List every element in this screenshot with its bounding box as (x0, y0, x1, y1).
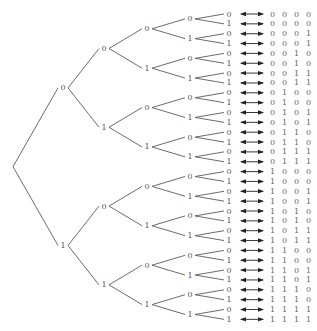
node-label: 0 (187, 93, 192, 102)
node-label: 0 (144, 103, 149, 112)
node-label: 1 (226, 256, 231, 265)
node-label: 1 (187, 192, 192, 201)
tree-edge (152, 295, 185, 305)
node-label: 1 (226, 197, 231, 206)
binary-code: 1 0 1 1 1 (270, 236, 317, 245)
tree-edge (152, 58, 185, 68)
tree-edge (195, 73, 224, 78)
node-label: 1 (226, 216, 231, 225)
tree-edge (195, 255, 224, 260)
node-label: 0 (187, 172, 192, 181)
binary-code: 0 0 0 1 1 (270, 39, 317, 48)
mapping-arrows (241, 14, 263, 319)
binary-code: 1 1 0 0 0 (270, 246, 317, 255)
binary-code: 1 0 0 1 1 (270, 197, 317, 206)
tree-edge (152, 265, 185, 275)
node-label: 1 (144, 142, 149, 151)
binary-code: 0 0 1 1 1 (270, 78, 317, 87)
tree-edge (68, 48, 99, 87)
node-label: 1 (226, 39, 231, 48)
tree-edge (109, 108, 142, 128)
node-label: 0 (144, 182, 149, 191)
tree-edge (195, 191, 224, 196)
node-label: 1 (144, 64, 149, 73)
binary-codes: 0 0 0 0 00 0 0 0 10 0 0 1 00 0 0 1 10 0 … (270, 10, 317, 324)
node-label: 1 (187, 74, 192, 83)
tree-edge (195, 314, 224, 319)
node-label: 0 (226, 108, 231, 117)
tree-edge (195, 117, 224, 122)
tree-edge (109, 206, 142, 226)
binary-code: 0 0 1 1 0 (270, 69, 317, 78)
tree-edge (195, 93, 224, 98)
tree-edge (152, 226, 185, 236)
tree-edge (195, 14, 224, 19)
binary-code: 0 1 1 0 1 (270, 138, 317, 147)
tree-edge (195, 177, 224, 182)
node-label: 0 (101, 44, 106, 53)
tree-edge (152, 216, 185, 226)
tree-edge (195, 58, 224, 63)
tree-edge (152, 137, 185, 147)
tree-edge (195, 152, 224, 157)
binary-code: 1 0 0 1 0 (270, 187, 317, 196)
tree-edge (109, 127, 142, 147)
tree-edge (195, 137, 224, 142)
node-label: 1 (187, 113, 192, 122)
tree-edge (152, 68, 185, 78)
node-label: 0 (226, 246, 231, 255)
node-label: 1 (226, 295, 231, 304)
tree-edge (195, 132, 224, 137)
binary-code: 0 1 0 1 1 (270, 118, 317, 127)
tree-edge (152, 255, 185, 265)
tree-edge (195, 310, 224, 315)
tree-edge (195, 295, 224, 300)
node-label: 1 (101, 123, 106, 132)
tree-edge (152, 186, 185, 196)
binary-code: 1 1 0 1 0 (270, 266, 317, 275)
tree-edge (195, 211, 224, 216)
tree-edge (195, 231, 224, 236)
tree-edge (109, 48, 142, 68)
tree-edge (195, 157, 224, 162)
tree-edge (152, 108, 185, 118)
node-label: 1 (60, 241, 65, 250)
node-label: 0 (226, 207, 231, 216)
node-label: 0 (187, 211, 192, 220)
tree-edge (195, 270, 224, 275)
node-label: 1 (226, 177, 231, 186)
binary-code: 1 1 1 1 0 (270, 305, 317, 314)
node-label: 0 (226, 128, 231, 137)
tree-edge (68, 88, 99, 127)
node-label: 0 (187, 54, 192, 63)
node-label: 0 (226, 147, 231, 156)
node-label: 0 (226, 266, 231, 275)
node-label: 1 (226, 19, 231, 28)
binary-code: 0 0 0 1 0 (270, 29, 317, 38)
node-label: 1 (226, 157, 231, 166)
binary-code: 0 0 0 0 0 (270, 10, 317, 19)
node-label: 1 (187, 152, 192, 161)
node-label: 0 (226, 285, 231, 294)
binary-code: 0 1 1 0 0 (270, 128, 317, 137)
node-label: 0 (144, 261, 149, 270)
node-label: 1 (226, 59, 231, 68)
tree-edge (195, 172, 224, 177)
tree-edge (152, 305, 185, 315)
node-label: 1 (226, 118, 231, 127)
binary-code: 0 1 0 1 0 (270, 108, 317, 117)
node-label: 1 (187, 271, 192, 280)
node-label: 1 (144, 300, 149, 309)
node-label: 0 (187, 290, 192, 299)
node-label: 1 (187, 34, 192, 43)
binary-code: 0 1 1 1 0 (270, 147, 317, 156)
binary-code: 1 1 1 1 1 (270, 315, 317, 324)
tree-edge (68, 245, 99, 284)
node-label: 1 (226, 315, 231, 324)
node-label: 0 (60, 83, 65, 92)
node-label: 1 (187, 310, 192, 319)
node-label: 1 (226, 98, 231, 107)
tree-edge (109, 285, 142, 305)
binary-code: 1 0 1 0 0 (270, 207, 317, 216)
node-label: 1 (226, 275, 231, 284)
